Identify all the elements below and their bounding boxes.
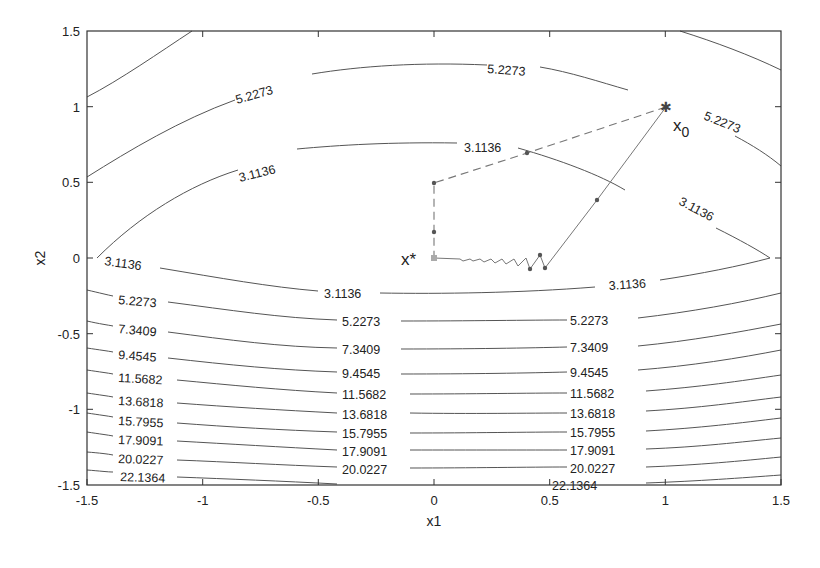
start-star-icon: ✱ <box>660 99 672 115</box>
xstar-label: x* <box>401 250 417 269</box>
contour-17-9091 <box>87 432 781 450</box>
contour-20-0227 <box>87 452 781 468</box>
contour-5-2273-lower <box>87 290 781 321</box>
path-marker <box>538 253 542 257</box>
contour-label: 20.0227 <box>570 462 615 476</box>
contour-7-3409 <box>87 321 781 349</box>
contour-label: 9.4545 <box>118 348 157 365</box>
y-tick-label: 1 <box>73 100 80 115</box>
contour-outer-top-left <box>87 31 192 97</box>
contour-label: 9.4545 <box>570 366 608 380</box>
y-tick-label: 0.5 <box>62 175 80 190</box>
path-marker <box>528 267 532 271</box>
contour-label: 15.7955 <box>342 427 387 441</box>
y-tick-label: -0.5 <box>58 327 80 342</box>
contour-label: 3.1136 <box>677 194 717 224</box>
x-axis-label: x1 <box>427 513 442 529</box>
contour-13-6818 <box>87 393 781 413</box>
y-tick-label: -1 <box>68 402 80 417</box>
contour-label: 11.5682 <box>570 387 614 401</box>
contour-chart: 5.2273 5.2273 5.2273 3.1136 3.1136 3.113… <box>0 0 820 568</box>
y-tick-label: 0 <box>73 251 80 266</box>
contour-label: 17.9091 <box>118 433 164 449</box>
contour-label: 13.6818 <box>570 407 615 421</box>
contour-label: 11.5682 <box>118 371 163 387</box>
contour-label: 3.1136 <box>464 141 501 155</box>
contour-outer-top-right <box>680 31 781 70</box>
contour-label: 13.6818 <box>342 408 387 422</box>
contour-3-1136-lower <box>160 258 770 293</box>
contour-9-4545 <box>87 348 781 374</box>
contour-label: 22.1364 <box>120 470 166 486</box>
contour-label: 9.4545 <box>342 367 380 381</box>
contour-label: 17.9091 <box>570 444 615 458</box>
dashed-path <box>434 107 666 258</box>
optimum-marker <box>431 255 437 261</box>
path-marker <box>432 230 436 234</box>
path-marker <box>543 266 547 270</box>
optimization-paths: ✱ <box>431 99 672 271</box>
path-marker <box>595 198 599 202</box>
x-tick-label: -1.5 <box>76 493 98 508</box>
contour-label: 5.2273 <box>702 109 743 136</box>
contour-label: 5.2273 <box>118 293 157 310</box>
x-tick-label: 1 <box>662 493 669 508</box>
contour-label: 3.1136 <box>237 162 277 185</box>
contour-label: 7.3409 <box>570 341 608 355</box>
contour-label: 22.1364 <box>552 479 597 493</box>
contour-label: 15.7955 <box>118 414 164 430</box>
x-tick-label: 0.5 <box>541 493 559 508</box>
contour-label: 7.3409 <box>342 343 380 357</box>
contour-label: 7.3409 <box>118 322 157 339</box>
contour-label: 3.1136 <box>324 287 361 301</box>
contour-label: 3.1136 <box>104 254 143 273</box>
contour-label: 5.2273 <box>342 315 380 329</box>
contour-label: 13.6818 <box>118 394 164 410</box>
contour-label: 20.0227 <box>342 463 387 477</box>
x-tick-label: -1 <box>197 493 209 508</box>
x-tick-labels: -1.5 -1 -0.5 0 0.5 1 1.5 <box>76 493 790 508</box>
contour-label: 3.1136 <box>608 276 646 293</box>
x-tick-label: 1.5 <box>772 493 790 508</box>
path-marker <box>525 151 529 155</box>
contour-label: 5.2273 <box>570 314 608 328</box>
contour-15-7955 <box>87 413 781 433</box>
contour-label: 15.7955 <box>570 426 615 440</box>
x-tick-label: -0.5 <box>307 493 329 508</box>
contour-label: 11.5682 <box>342 388 386 402</box>
x-tick-label: 0 <box>430 493 437 508</box>
contour-label: 20.0227 <box>118 452 164 468</box>
contour-label: 5.2273 <box>234 83 275 107</box>
x0-label: x0 <box>673 116 690 140</box>
solid-path <box>434 107 666 269</box>
contour-labels: 5.2273 5.2273 5.2273 3.1136 3.1136 3.113… <box>104 62 743 493</box>
y-axis-label: x2 <box>32 250 48 265</box>
path-marker <box>432 181 436 185</box>
y-tick-labels: 1.5 1 0.5 0 -0.5 -1 -1.5 <box>58 24 80 493</box>
contour-label: 5.2273 <box>487 62 526 79</box>
y-tick-label: 1.5 <box>62 24 80 39</box>
y-tick-label: -1.5 <box>58 478 80 493</box>
contour-label: 17.9091 <box>342 445 387 459</box>
